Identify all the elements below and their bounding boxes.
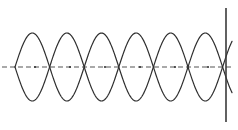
crossing-point-3 — [104, 66, 106, 68]
crossing-point-6 — [207, 66, 209, 68]
crossing-point-5 — [174, 66, 176, 68]
crossing-point-4 — [139, 66, 141, 68]
wave-plot-canvas — [0, 0, 238, 130]
crossing-point-1 — [34, 66, 36, 68]
standing-wave-figure — [0, 0, 238, 130]
crossing-point-2 — [69, 66, 71, 68]
